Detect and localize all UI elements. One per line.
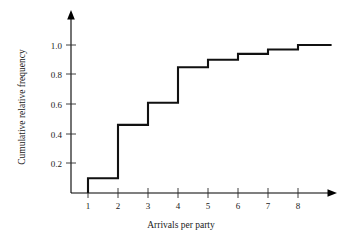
x-axis-title: Arrivals per party bbox=[147, 220, 215, 230]
x-tick-label-4: 4 bbox=[176, 201, 181, 211]
x-tick-label-3: 3 bbox=[146, 201, 151, 211]
y-tick-label-0.8: 0.8 bbox=[51, 70, 63, 80]
x-tick-label-6: 6 bbox=[236, 201, 241, 211]
cdf-chart-figure: 0.2 0.4 0.6 0.8 1.0 1 2 3 4 5 6 7 8 Arri… bbox=[0, 0, 353, 240]
y-axis-title: Cumulative relative frequency bbox=[17, 49, 27, 165]
y-tick-label-0.4: 0.4 bbox=[51, 130, 63, 140]
y-axis-arrow-icon bbox=[67, 10, 75, 20]
x-tick-label-2: 2 bbox=[116, 201, 121, 211]
x-tick-label-7: 7 bbox=[266, 201, 271, 211]
x-tick-label-5: 5 bbox=[206, 201, 211, 211]
x-tick-label-8: 8 bbox=[296, 201, 301, 211]
chart-plot-area: 0.2 0.4 0.6 0.8 1.0 1 2 3 4 5 6 7 8 Arri… bbox=[0, 0, 353, 240]
x-tick-label-1: 1 bbox=[86, 201, 91, 211]
y-tick-label-0.6: 0.6 bbox=[51, 100, 63, 110]
cumulative-step-curve bbox=[88, 45, 332, 193]
y-tick-label-1.0: 1.0 bbox=[51, 41, 63, 51]
y-tick-label-0.2: 0.2 bbox=[51, 159, 62, 169]
x-axis-arrow-icon bbox=[328, 189, 338, 197]
